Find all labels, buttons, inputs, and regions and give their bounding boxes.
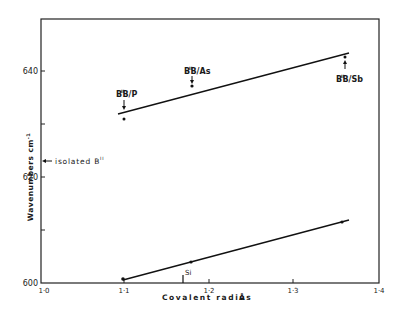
y-tick-640: 640 (23, 67, 38, 76)
y-axis-label: Wavenumbers cm-1 (25, 133, 35, 222)
label-bp: BIIB/P (116, 89, 137, 99)
chart: 640 620 600 1·0 1·1 1·2 1·3 1·4 Wavenumb… (0, 0, 402, 313)
y-tick-600: 600 (23, 279, 38, 288)
x-axis-unit: Å (239, 293, 245, 302)
point-lower-2 (189, 260, 192, 263)
point-lower-1 (121, 277, 125, 281)
label-bas: BIIB/As (184, 66, 211, 76)
label-si: Si (185, 269, 191, 277)
x-tick-1-3: 1·3 (287, 287, 298, 295)
label-bsb: BIIB/Sb (336, 74, 363, 84)
point-bsb (344, 56, 347, 59)
x-tick-1-0: 1·0 (38, 287, 49, 295)
point-lower-3 (340, 220, 343, 223)
arrowhead-bsb (343, 60, 347, 64)
x-tick-1-4: 1·4 (373, 287, 385, 295)
point-bas (190, 84, 193, 87)
arrowhead-bas (190, 80, 194, 84)
isolated-arrowhead (42, 159, 46, 163)
upper-fit-line (118, 53, 349, 114)
x-tick-1-1: 1·1 (118, 287, 129, 295)
point-bp (123, 118, 126, 121)
arrowhead-bp (122, 106, 126, 110)
label-isolated: isolated BII (55, 156, 104, 166)
lower-fit-line (123, 220, 349, 280)
